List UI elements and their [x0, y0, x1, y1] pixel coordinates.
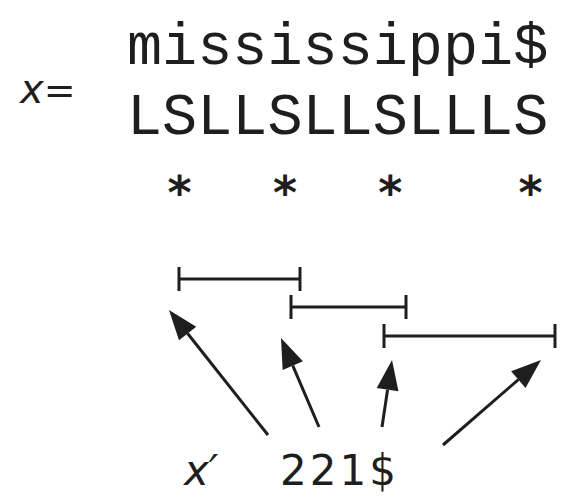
lms-diagram	[0, 0, 577, 503]
lms-substring-bracket	[384, 324, 555, 348]
reduced-string: 221$	[280, 446, 399, 496]
arrows	[169, 310, 541, 445]
lms-substring-brackets	[179, 267, 555, 348]
reduced-label: x′	[184, 446, 218, 496]
arrow	[281, 338, 319, 427]
arrow	[443, 360, 541, 445]
arrow	[169, 310, 268, 435]
arrow	[377, 360, 399, 427]
lms-substring-bracket	[179, 267, 300, 291]
lms-substring-bracket	[291, 295, 406, 319]
